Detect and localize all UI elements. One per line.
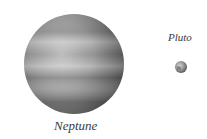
diagram-canvas bbox=[0, 0, 207, 139]
pluto-label: Pluto bbox=[168, 31, 192, 43]
neptune-label: Neptune bbox=[54, 118, 97, 134]
planet-size-diagram: Pluto Neptune bbox=[0, 0, 207, 139]
neptune-sphere bbox=[24, 14, 124, 114]
pluto-sphere bbox=[175, 61, 187, 73]
